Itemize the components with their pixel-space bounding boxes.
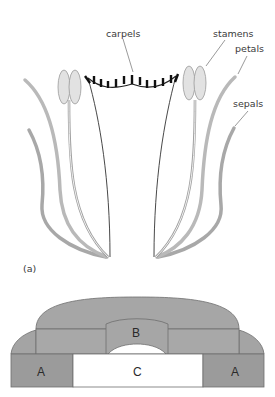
region-b-label: B: [132, 326, 140, 340]
petals-leader-line: [238, 56, 247, 74]
sepals-label: sepals: [233, 98, 263, 109]
sepals-leader-line: [235, 111, 248, 126]
carpels-leader-line: [123, 39, 133, 72]
carpel-wall-right: [154, 76, 176, 257]
petal-left: [25, 80, 107, 257]
flower-cross-section: carpels stamens petals sepals (a): [23, 28, 264, 274]
sepal-right: [158, 128, 234, 257]
anther-left-1: [58, 70, 70, 104]
sepal-left: [29, 130, 106, 257]
region-a-left-label: A: [37, 365, 45, 379]
region-a-right-label: A: [231, 365, 239, 379]
carpel-stigma-ticks: [85, 74, 178, 88]
region-c-label: C: [133, 365, 142, 379]
right-wing: [239, 330, 264, 354]
panel-label-a: (a): [23, 263, 36, 274]
left-wing: [11, 330, 36, 354]
anther-right-2: [194, 66, 206, 100]
abc-model-diagram: A C A B: [11, 297, 264, 387]
anther-right-1: [183, 66, 195, 100]
stamens-label: stamens: [213, 28, 254, 39]
carpels-label: carpels: [106, 28, 140, 39]
flower-diagram: carpels stamens petals sepals (a) A C A …: [0, 0, 275, 397]
carpel-wall-left: [88, 78, 110, 257]
petals-label: petals: [235, 43, 264, 54]
stamens-leader-line: [206, 40, 225, 66]
anther-left-2: [69, 70, 81, 104]
